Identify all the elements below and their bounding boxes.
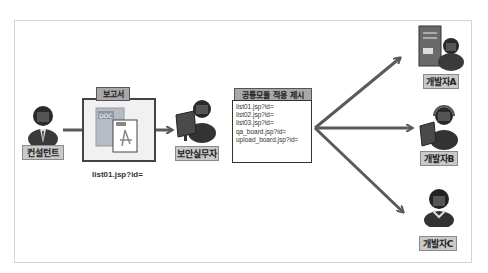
developer-c-label: 개발자C [419,236,457,251]
arrow-to-dev-a [315,58,400,128]
doc-pdf-icon: DOC [94,106,144,156]
report-box: DOC [82,98,156,162]
doc-badge-text: DOC [99,112,113,119]
security-officer-person-icon [174,97,218,143]
proposal-box: list01.jsp?id= list02.jsp?id= list03.jsp… [232,100,312,163]
developer-a-server-person-icon [415,22,467,72]
proposal-item: upload_board.jsp?id= [236,136,308,144]
consultant-person-icon [26,103,60,145]
report-caption: list01.jsp?id= [92,170,143,179]
proposal-item: qa_board.jsp?id= [236,128,308,136]
security-officer-label: 보안실무자 [175,146,219,161]
developer-a-label: 개발자A [423,74,459,89]
developer-b-label: 개발자B [420,151,458,166]
report-title: 보고서 [96,87,130,101]
proposal-item: list02.jsp?id= [236,111,308,119]
consultant-label: 컨설턴트 [22,145,64,160]
developer-c-person-icon [421,185,457,227]
developer-b-headset-person-icon [418,104,462,150]
arrow-to-dev-c [315,128,403,212]
proposal-item: list03.jsp?id= [236,119,308,127]
proposal-item: list01.jsp?id= [236,103,308,111]
